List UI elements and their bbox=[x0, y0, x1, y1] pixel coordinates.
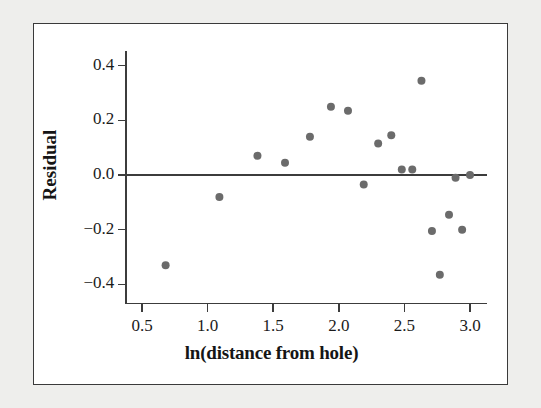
data-point bbox=[458, 226, 466, 234]
x-axis-tick-label: 3.0 bbox=[446, 316, 494, 336]
data-point bbox=[215, 193, 223, 201]
data-point bbox=[466, 171, 474, 179]
y-axis-tick-label: 0.4 bbox=[56, 55, 114, 75]
y-axis-tick-label: −0.4 bbox=[56, 273, 114, 293]
figure-frame: Residual ln(distance from hole) 0.40.20.… bbox=[33, 23, 508, 385]
data-point bbox=[344, 107, 352, 115]
data-point bbox=[162, 261, 170, 269]
data-point bbox=[417, 77, 425, 85]
x-axis-tick-label: 1.0 bbox=[184, 316, 232, 336]
data-point bbox=[436, 271, 444, 279]
x-axis-tick-label: 2.5 bbox=[380, 316, 428, 336]
data-point bbox=[408, 166, 416, 174]
data-point bbox=[281, 159, 289, 167]
x-axis-tick-label: 2.0 bbox=[315, 316, 363, 336]
data-point bbox=[452, 174, 460, 182]
data-point bbox=[398, 166, 406, 174]
data-point bbox=[428, 227, 436, 235]
y-axis-tick-label: 0.2 bbox=[56, 109, 114, 129]
y-axis-tick-label: 0.0 bbox=[56, 164, 114, 184]
data-point bbox=[306, 133, 314, 141]
x-axis-title: ln(distance from hole) bbox=[34, 342, 509, 364]
data-point bbox=[445, 211, 453, 219]
scatter-plot-screenshot: Residual ln(distance from hole) 0.40.20.… bbox=[0, 0, 541, 408]
data-point bbox=[327, 103, 335, 111]
x-axis-tick-label: 0.5 bbox=[118, 316, 166, 336]
y-axis-tick-label: −0.2 bbox=[56, 219, 114, 239]
data-point bbox=[253, 152, 261, 160]
data-point bbox=[360, 181, 368, 189]
data-point bbox=[374, 140, 382, 148]
data-point bbox=[387, 131, 395, 139]
x-axis-tick-label: 1.5 bbox=[249, 316, 297, 336]
plot-area: Residual ln(distance from hole) 0.40.20.… bbox=[34, 24, 509, 386]
